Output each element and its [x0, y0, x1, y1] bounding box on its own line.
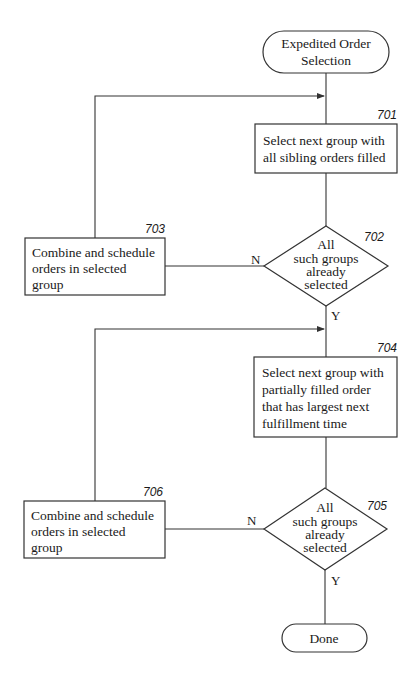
ref-label-702: 702 — [364, 230, 384, 244]
ref-label-703: 703 — [145, 222, 165, 236]
decision-705-line-1: All — [316, 500, 334, 515]
ref-label-701: 701 — [377, 108, 397, 122]
flowchart: Expedited Order Selection Select next gr… — [0, 0, 418, 688]
process-706-line-3: group — [31, 540, 63, 555]
decision-705: All such groups already selected 705 N Y — [247, 488, 387, 588]
ref-label-705: 705 — [367, 499, 387, 513]
decision-705-line-4: selected — [303, 540, 347, 555]
process-704-line-3: that has largest next — [262, 399, 370, 414]
done-terminal-label: Done — [309, 631, 338, 646]
decision-702-no-label: N — [251, 252, 261, 267]
process-701-line-1: Select next group with — [263, 133, 385, 148]
process-703-line-3: group — [32, 277, 64, 292]
start-terminal-line-2: Selection — [301, 53, 351, 68]
start-terminal-line-1: Expedited Order — [281, 36, 371, 51]
decision-702-line-4: selected — [304, 277, 348, 292]
ref-label-704: 704 — [377, 341, 397, 355]
process-704-line-2: partially filled order — [262, 382, 371, 397]
process-706-line-2: orders in selected — [31, 524, 126, 539]
decision-702-yes-label: Y — [331, 308, 341, 323]
decision-702: All such groups already selected 702 N Y — [251, 226, 388, 323]
decision-705-yes-label: Y — [331, 573, 341, 588]
decision-702-line-1: All — [317, 237, 335, 252]
process-704-line-4: fulfillment time — [262, 416, 347, 431]
decision-705-no-label: N — [247, 513, 257, 528]
process-703-line-1: Combine and schedule — [32, 245, 155, 260]
process-706-line-1: Combine and schedule — [31, 508, 154, 523]
process-703-line-2: orders in selected — [32, 261, 127, 276]
process-701-line-2: all sibling orders filled — [263, 150, 386, 165]
ref-label-706: 706 — [143, 485, 163, 499]
start-terminal: Expedited Order Selection — [263, 31, 389, 73]
process-704-line-1: Select next group with — [262, 365, 384, 380]
done-terminal: Done — [282, 624, 367, 652]
